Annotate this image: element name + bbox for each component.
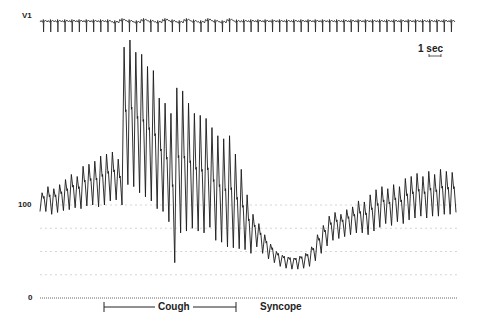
arterial-pressure-trace <box>40 40 456 269</box>
cough-annotation: Cough <box>155 302 193 312</box>
time-scale-label: 1 sec <box>418 44 443 54</box>
lead-label-v1: V1 <box>22 12 32 20</box>
time-scale-bar <box>429 54 441 57</box>
syncope-annotation: Syncope <box>260 302 302 312</box>
grid-lines <box>40 205 458 275</box>
y-tick-100: 100 <box>18 201 31 209</box>
y-tick-0: 0 <box>28 294 32 302</box>
ecg-trace-v1 <box>40 18 455 32</box>
pressure-ecg-chart <box>0 0 477 325</box>
